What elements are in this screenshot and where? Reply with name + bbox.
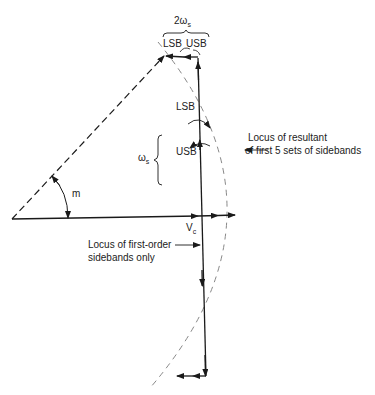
- locus-resultant-label-2: of first 5 sets of sidebands: [245, 145, 361, 156]
- phasor-diagram: [0, 0, 375, 395]
- first-order-locus: [198, 58, 206, 376]
- top-bracket-label: 2ωs: [174, 15, 191, 30]
- locus-first-order-label-1: Locus of first-order: [88, 239, 171, 250]
- locus-resultant-label-1: Locus of resultant: [248, 132, 327, 143]
- top-lsb-label: LSB: [163, 38, 182, 49]
- carrier-ext-2: [218, 215, 235, 216]
- resultant-phasor: [12, 56, 164, 219]
- upward-arrow: [198, 62, 199, 80]
- mid-lsb-label: LSB: [176, 101, 195, 112]
- top-usb-label: USB: [186, 38, 207, 49]
- modulation-angle-arc-start: [52, 176, 60, 186]
- locus-first-order-label-2: sidebands only: [88, 252, 155, 263]
- modulation-angle-arc: [52, 176, 68, 218]
- down-arrow-2: [205, 355, 206, 376]
- angle-m-label: m: [72, 188, 80, 199]
- carrier-label: Vc: [186, 222, 196, 237]
- omega-brace: [154, 135, 162, 185]
- carrier-phasor: [12, 216, 198, 219]
- top-brace: [163, 30, 209, 37]
- mid-usb-label: USB: [176, 146, 197, 157]
- top-sideband-2: [166, 56, 184, 57]
- omega-s-label: ωs: [138, 152, 149, 167]
- top-usb-rotation: [193, 50, 200, 55]
- carrier-ext-1: [198, 216, 218, 217]
